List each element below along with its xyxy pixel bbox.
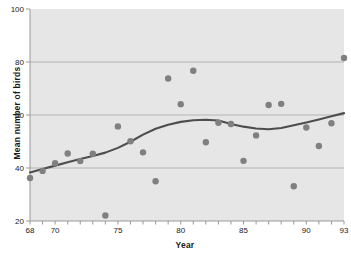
data-point: [52, 160, 58, 166]
data-point: [240, 158, 246, 164]
data-point: [291, 183, 297, 189]
data-point: [316, 143, 322, 149]
scatter-plot: 2040608010068707580859093: [0, 0, 351, 259]
y-tick-label: 100: [11, 5, 25, 14]
data-point: [253, 132, 259, 138]
data-point: [228, 121, 234, 127]
data-point: [152, 178, 158, 184]
x-tick-label: 85: [239, 226, 248, 235]
x-axis-title: Year: [30, 240, 340, 250]
x-tick-label: 80: [176, 226, 185, 235]
data-point: [90, 150, 96, 156]
data-point: [102, 212, 108, 218]
data-point: [215, 119, 221, 125]
x-tick-label: 93: [340, 226, 349, 235]
data-point: [328, 120, 334, 126]
data-point: [265, 102, 271, 108]
data-point: [165, 75, 171, 81]
y-tick-label: 20: [15, 217, 24, 226]
data-point: [278, 101, 284, 107]
x-tick-label: 90: [302, 226, 311, 235]
data-point: [27, 175, 33, 181]
data-point: [140, 149, 146, 155]
x-tick-label: 75: [113, 226, 122, 235]
x-tick-label: 70: [51, 226, 60, 235]
data-point: [127, 138, 133, 144]
x-tick-label: 68: [26, 226, 35, 235]
data-point: [190, 68, 196, 74]
data-point: [178, 101, 184, 107]
chart-figure: 2040608010068707580859093 Mean number of…: [0, 0, 351, 259]
y-axis-title: Mean number of birds: [12, 58, 22, 168]
data-point: [64, 150, 70, 156]
data-point: [115, 123, 121, 129]
data-point: [203, 139, 209, 145]
data-point: [39, 168, 45, 174]
data-point: [77, 158, 83, 164]
data-point: [341, 55, 347, 61]
data-point: [303, 124, 309, 130]
